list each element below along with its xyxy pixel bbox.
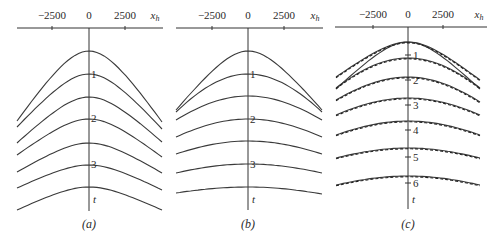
x-tick-label: 0 <box>86 9 92 21</box>
x-tick-label: 0 <box>245 9 251 21</box>
t-axis-label: t <box>412 193 416 205</box>
t-tick-label: 6 <box>413 177 419 189</box>
t-tick-label: 5 <box>413 151 419 163</box>
reflection-curve <box>176 187 322 194</box>
t-tick-label: 2 <box>413 74 419 86</box>
x-axis-label: xh <box>150 9 160 23</box>
time-label: 3 <box>250 158 256 170</box>
reflection-curve <box>176 141 322 154</box>
panel-caption: (a) <box>82 217 96 231</box>
time-label: 2 <box>91 112 97 124</box>
x-axis-label: xh <box>474 8 484 22</box>
panel-caption: (c) <box>401 217 414 231</box>
reflection-curve <box>176 119 322 137</box>
time-label: 3 <box>91 158 97 170</box>
time-label: 2 <box>250 113 256 125</box>
panel-caption: (b) <box>241 217 255 231</box>
t-axis-label: t <box>252 193 256 205</box>
t-tick-label: 3 <box>413 99 419 111</box>
hyperbola-figure: −250002500xht123(a) −250002500xht123(b) … <box>0 0 493 243</box>
x-tick-label: 2500 <box>114 9 137 21</box>
x-tick-label: 2500 <box>432 8 455 20</box>
reflection-curve <box>176 51 322 110</box>
x-tick-label: 0 <box>405 8 411 20</box>
time-label: 1 <box>91 68 97 80</box>
x-axis-label: xh <box>310 9 320 23</box>
x-tick-label: −2500 <box>38 9 67 21</box>
x-tick-label: −2500 <box>359 8 388 20</box>
t-axis-label: t <box>93 193 97 205</box>
time-label: 1 <box>250 68 256 80</box>
reflection-curve <box>176 96 322 120</box>
reflection-curve <box>176 164 322 173</box>
t-tick-label: 4 <box>413 124 419 136</box>
x-tick-label: 2500 <box>273 9 296 21</box>
reflection-curve <box>176 74 322 112</box>
panel-c: −250002500xht123456(c) <box>335 8 487 231</box>
panel-b: −250002500xht123(b) <box>176 9 323 231</box>
x-tick-label: −2500 <box>198 9 227 21</box>
panel-a: −250002500xht123(a) <box>17 9 163 231</box>
